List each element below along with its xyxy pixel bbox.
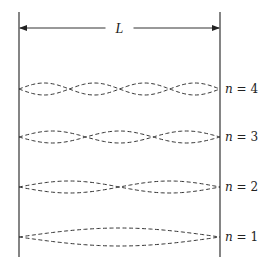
mode-label: n = 4: [225, 82, 258, 96]
mode-n1: n = 1: [19, 228, 258, 246]
wave-lower: [19, 83, 220, 95]
mode-n4: n = 4: [19, 82, 258, 96]
mode-n2: n = 2: [19, 180, 258, 194]
wave-lower: [19, 131, 220, 143]
wave-lower: [19, 237, 220, 246]
wave-modes: n = 4n = 3n = 2n = 1: [19, 82, 258, 246]
mode-label: n = 1: [225, 230, 258, 244]
wave-lower: [19, 181, 220, 193]
length-label: L: [115, 21, 124, 36]
mode-n3: n = 3: [19, 130, 258, 144]
wave-upper: [19, 228, 220, 237]
length-dimension: L: [20, 21, 219, 36]
wave-upper: [19, 131, 220, 143]
wave-upper: [19, 83, 220, 95]
mode-label: n = 3: [225, 130, 258, 144]
mode-label: n = 2: [225, 180, 258, 194]
standing-wave-diagram: L n = 4n = 3n = 2n = 1: [0, 0, 267, 271]
